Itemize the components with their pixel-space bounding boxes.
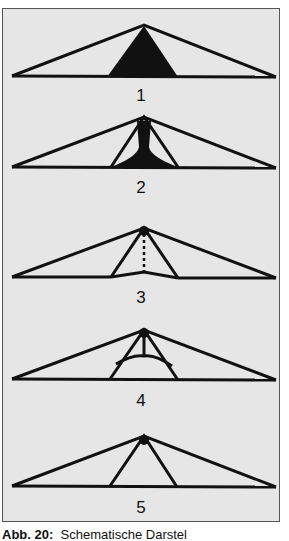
panel-label: 2 xyxy=(3,179,279,196)
panel-label: 1 xyxy=(3,87,279,104)
panel-label: 5 xyxy=(3,499,279,516)
caption-text: Schematische Darstel xyxy=(61,527,187,541)
panel-2: 2 xyxy=(3,109,279,214)
panel-label: 4 xyxy=(3,392,279,409)
diagram-2-icon xyxy=(3,109,279,214)
panel-3: 3 xyxy=(3,214,279,314)
caption-number: Abb. 20 xyxy=(2,527,49,541)
panel-1: 1 xyxy=(3,9,279,109)
figure-frame: 1 2 3 4 xyxy=(2,8,280,522)
panel-label: 3 xyxy=(3,289,279,306)
panel-4: 4 xyxy=(3,314,279,419)
panel-5: 5 xyxy=(3,419,279,521)
figure-caption: Abb. 20: Schematische Darstel xyxy=(2,527,187,541)
